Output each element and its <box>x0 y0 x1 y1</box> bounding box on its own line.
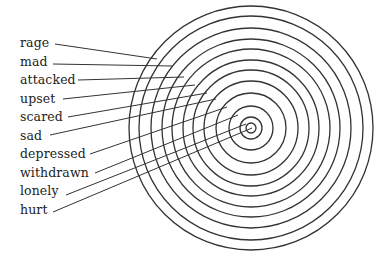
leader-line-mad <box>53 64 172 66</box>
emotion-target-diagram: rage mad attacked upset scared sad depre… <box>0 0 387 261</box>
leader-line-lonely <box>66 124 246 195</box>
label-lonely: lonely <box>20 184 59 198</box>
target-rings-graphic <box>0 0 387 261</box>
leader-line-upset <box>63 85 195 99</box>
leader-line-rage <box>55 44 157 59</box>
leader-line-attacked <box>78 77 184 80</box>
label-depressed: depressed <box>20 147 86 161</box>
label-scared: scared <box>20 110 63 124</box>
label-attacked: attacked <box>20 73 76 87</box>
label-mad: mad <box>20 55 48 69</box>
label-upset: upset <box>20 92 55 106</box>
label-hurt: hurt <box>20 203 48 217</box>
leader-line-sad <box>50 99 216 135</box>
label-sad: sad <box>20 129 42 143</box>
label-withdrawn: withdrawn <box>20 166 89 180</box>
label-rage: rage <box>20 36 49 50</box>
